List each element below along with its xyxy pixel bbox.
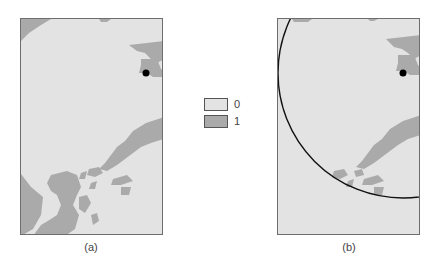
legend-item-1: 1 xyxy=(204,115,240,128)
class-1-regions xyxy=(292,19,420,195)
location-marker xyxy=(400,70,407,77)
map-panel-b xyxy=(277,18,420,235)
legend-label-0: 0 xyxy=(234,98,240,111)
binary-map-b xyxy=(278,19,420,235)
location-marker xyxy=(143,70,150,77)
legend-label-1: 1 xyxy=(234,115,240,128)
class-1-regions xyxy=(21,19,163,235)
legend-item-0: 0 xyxy=(204,98,240,111)
legend: 0 1 xyxy=(204,98,240,132)
map-panel-a xyxy=(20,18,163,235)
legend-swatch-0 xyxy=(204,98,228,111)
binary-map-a xyxy=(21,19,163,235)
legend-swatch-1 xyxy=(204,115,228,128)
caption-b: (b) xyxy=(329,241,369,253)
caption-a: (a) xyxy=(71,241,111,253)
